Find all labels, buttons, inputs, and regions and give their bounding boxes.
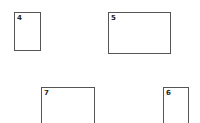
box-5[interactable]: 5 <box>108 12 171 54</box>
box-label-4: 4 <box>17 14 22 22</box>
box-6[interactable]: 6 <box>163 87 189 123</box>
box-4[interactable]: 4 <box>14 12 41 51</box>
box-label-5: 5 <box>111 14 116 22</box>
box-7[interactable]: 7 <box>41 87 95 123</box>
box-label-6: 6 <box>166 89 171 97</box>
box-label-7: 7 <box>44 89 49 97</box>
